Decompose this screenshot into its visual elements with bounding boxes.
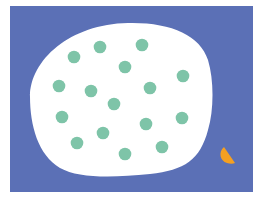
green-dot xyxy=(144,82,157,95)
green-dot xyxy=(119,61,132,74)
green-dot xyxy=(71,137,84,150)
green-dot xyxy=(97,127,110,140)
green-dot xyxy=(156,141,169,154)
illustration xyxy=(0,0,258,199)
green-dot xyxy=(94,41,107,54)
green-dot xyxy=(176,112,189,125)
green-dot xyxy=(68,51,81,64)
green-dot xyxy=(108,98,121,111)
green-dot xyxy=(85,85,98,98)
green-dot xyxy=(177,70,190,83)
green-dot xyxy=(140,118,153,131)
green-dot xyxy=(136,39,149,52)
green-dot xyxy=(53,80,66,93)
green-dot xyxy=(56,111,69,124)
green-dot xyxy=(119,148,132,161)
